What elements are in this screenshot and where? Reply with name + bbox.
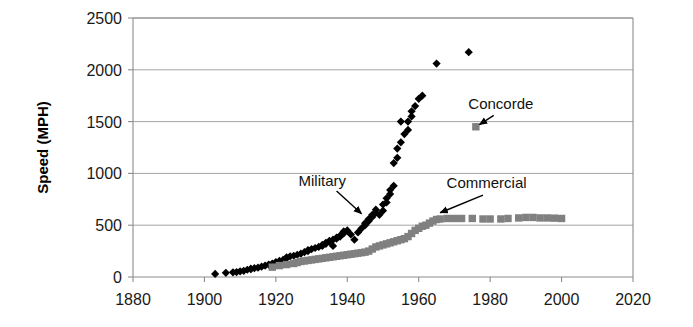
data-point-square	[479, 215, 486, 222]
gridlines	[133, 18, 633, 225]
xtick-label-2000: 2000	[544, 291, 580, 308]
xtick-label-1980: 1980	[472, 291, 508, 308]
y-axis-title: Speed (MPH)	[34, 101, 51, 194]
annotation-military: Military	[299, 172, 362, 214]
xtick-label-1920: 1920	[258, 291, 294, 308]
annotation-arrow	[479, 115, 493, 124]
annotations: MilitaryConcordeCommercial	[299, 95, 534, 214]
data-point-square	[276, 262, 283, 269]
annotation-label: Concorde	[468, 95, 533, 112]
series-commercial	[269, 214, 566, 271]
data-point-diamond	[397, 118, 405, 126]
data-point-square	[451, 215, 458, 222]
data-point-diamond	[432, 59, 440, 67]
data-point-square	[283, 261, 290, 268]
chart-svg: 0500100015002000250018801900192019401960…	[0, 0, 693, 327]
ytick-label-1500: 1500	[86, 114, 122, 131]
data-point-square	[436, 215, 443, 222]
annotation-commercial: Commercial	[440, 174, 526, 213]
annotation-arrow	[440, 195, 483, 213]
xtick-label-1880: 1880	[115, 291, 151, 308]
ytick-label-0: 0	[113, 269, 122, 286]
data-point-square	[536, 214, 543, 221]
xtick-label-2020: 2020	[615, 291, 651, 308]
data-point-square	[486, 215, 493, 222]
ytick-label-2500: 2500	[86, 10, 122, 27]
data-point-square	[529, 214, 536, 221]
y-axis-title-text: Speed (MPH)	[34, 101, 51, 194]
annotation-concorde: Concorde	[468, 95, 533, 125]
data-point-square	[444, 215, 451, 222]
ytick-label-500: 500	[95, 217, 122, 234]
data-point-square	[497, 215, 504, 222]
data-point-square	[269, 263, 276, 270]
data-point-diamond	[222, 269, 230, 277]
annotation-arrow	[337, 191, 362, 214]
xtick-label-1960: 1960	[401, 291, 437, 308]
data-point-square	[469, 215, 476, 222]
xtick-label-1940: 1940	[329, 291, 365, 308]
series-concorde	[472, 123, 479, 130]
data-point-square	[558, 215, 565, 222]
ytick-label-1000: 1000	[86, 165, 122, 182]
axis-tick-labels: 0500100015002000250018801900192019401960…	[86, 10, 650, 308]
data-point-square	[472, 123, 479, 130]
data-point-diamond	[465, 48, 473, 56]
data-points	[211, 48, 565, 278]
speed-vs-year-chart: 0500100015002000250018801900192019401960…	[0, 0, 693, 327]
data-point-square	[504, 215, 511, 222]
plot-frame	[133, 18, 633, 277]
data-point-square	[458, 215, 465, 222]
annotation-label: Commercial	[447, 174, 527, 191]
xtick-label-1900: 1900	[187, 291, 223, 308]
data-point-square	[515, 214, 522, 221]
annotation-label: Military	[299, 172, 347, 189]
data-point-square	[522, 214, 529, 221]
data-point-square	[544, 214, 551, 221]
ytick-label-2000: 2000	[86, 62, 122, 79]
data-point-square	[551, 214, 558, 221]
series-military	[211, 48, 473, 278]
